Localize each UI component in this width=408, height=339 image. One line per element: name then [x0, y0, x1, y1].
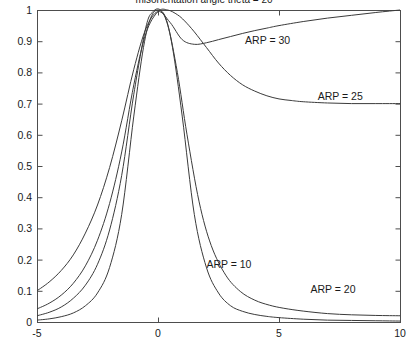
x-tick-label: 10 — [394, 327, 406, 339]
annotation-label: ARP = 10 — [206, 258, 251, 270]
curve-arp-30 — [37, 10, 400, 291]
x-tick-label: -5 — [32, 327, 41, 339]
y-tick-label: 0.2 — [17, 254, 32, 266]
y-tick-label: 0.1 — [17, 285, 32, 297]
y-tick-label: 0.5 — [17, 160, 32, 172]
x-tick-label: 0 — [155, 327, 161, 339]
y-tick-label: 0.7 — [17, 98, 32, 110]
y-tick-label: 0.6 — [17, 129, 32, 141]
data-curves — [37, 9, 400, 321]
y-tick-label: 0 — [26, 316, 32, 328]
curve-arp-10 — [37, 10, 400, 321]
y-tick-label: 0.3 — [17, 222, 32, 234]
y-tick-label: 1 — [26, 4, 32, 16]
y-axis-tick-labels: 00.10.20.30.40.50.60.70.80.91 — [17, 4, 32, 328]
y-tick-label: 0.8 — [17, 66, 32, 78]
x-tick-label: 5 — [276, 327, 282, 339]
curve-annotations: ARP = 30ARP = 25ARP = 10ARP = 20 — [206, 34, 363, 296]
y-tick-label: 0.4 — [17, 191, 32, 203]
x-axis-tick-labels: -50510 — [32, 327, 406, 339]
annotation-label: ARP = 25 — [318, 90, 363, 102]
chart-figure: misorientation angle theta = 20 -50510 0… — [0, 0, 408, 339]
annotation-label: ARP = 30 — [245, 34, 290, 46]
plot-area: -50510 00.10.20.30.40.50.60.70.80.91 ARP… — [0, 0, 408, 339]
y-tick-label: 0.9 — [17, 35, 32, 47]
annotation-label: ARP = 20 — [310, 283, 355, 295]
